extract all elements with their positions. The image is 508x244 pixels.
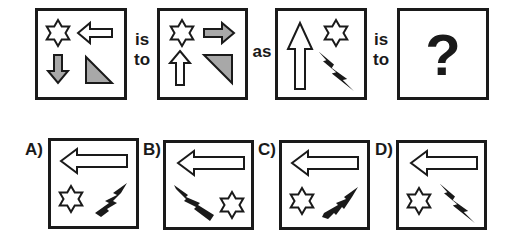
star-icon [171,20,194,46]
star-icon [291,188,314,214]
option-b[interactable] [163,140,254,230]
option-c[interactable] [279,140,370,230]
connector-is-to-1: is to [131,30,153,70]
star-icon [408,188,431,214]
left-arrow-icon [292,151,358,175]
inverted-triangle-icon [204,55,232,83]
left-arrow-icon [78,23,112,43]
lightning-icon [440,183,475,223]
lightning-icon [322,187,358,219]
down-arrow-icon [48,55,68,83]
puzzle-box-1 [35,8,127,100]
star-icon [47,20,70,46]
option-c-label: C) [258,140,276,160]
tall-up-arrow-icon [288,23,312,89]
star-icon [325,20,348,46]
triangle-icon [86,57,112,83]
puzzle-box-4-unknown: ? [397,8,489,100]
lightning-icon [174,185,214,221]
star-icon [221,192,244,218]
option-a-label: A) [25,140,43,160]
right-arrow-icon [204,23,234,43]
option-a[interactable] [48,138,139,229]
left-arrow-icon [411,151,477,175]
up-arrow-icon [170,51,190,85]
left-arrow-icon [61,149,127,173]
lightning-icon [319,51,354,91]
option-d-label: D) [375,140,393,160]
star-icon [60,186,83,212]
puzzle-box-3 [275,8,367,100]
connector-as: as [249,42,275,62]
connector-is-to-2: is to [370,30,392,70]
option-b-label: B) [143,140,161,160]
left-arrow-icon [178,151,244,175]
lightning-icon [95,183,127,217]
puzzle-box-2 [157,8,248,100]
question-mark-icon: ? [400,11,486,97]
option-d[interactable] [396,140,487,230]
